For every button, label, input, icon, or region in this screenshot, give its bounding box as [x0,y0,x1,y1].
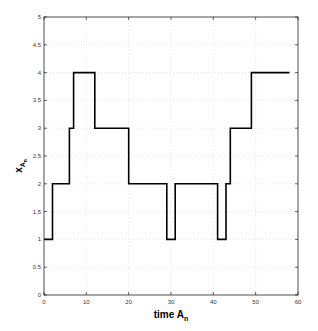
x-tick-label: 20 [125,299,132,305]
step-chart: 0102030405060 00.511.522.533.544.55 time… [0,0,318,331]
y-tick-label: 3 [38,125,42,131]
x-tick-label: 60 [295,299,302,305]
y-tick-label: 1 [38,236,42,242]
x-tick-label: 10 [83,299,90,305]
x-tick-label: 30 [168,299,175,305]
y-tick-label: 0 [38,292,42,298]
y-tick-label: 5 [38,14,42,20]
y-tick-labels: 00.511.522.533.544.55 [33,14,42,298]
y-tick-label: 2.5 [33,153,42,159]
grid-lines [44,17,298,295]
y-tick-label: 3.5 [33,97,42,103]
x-axis-label: time An [154,309,188,322]
y-tick-label: 4 [38,70,42,76]
x-tick-label: 40 [210,299,217,305]
y-axis-label: xAn [13,159,28,173]
y-tick-label: 2 [38,181,42,187]
y-tick-label: 1.5 [33,209,42,215]
x-tick-label: 0 [42,299,46,305]
x-tick-labels: 0102030405060 [42,299,302,305]
y-tick-label: 0.5 [33,264,42,270]
y-tick-label: 4.5 [33,42,42,48]
x-tick-label: 50 [252,299,259,305]
